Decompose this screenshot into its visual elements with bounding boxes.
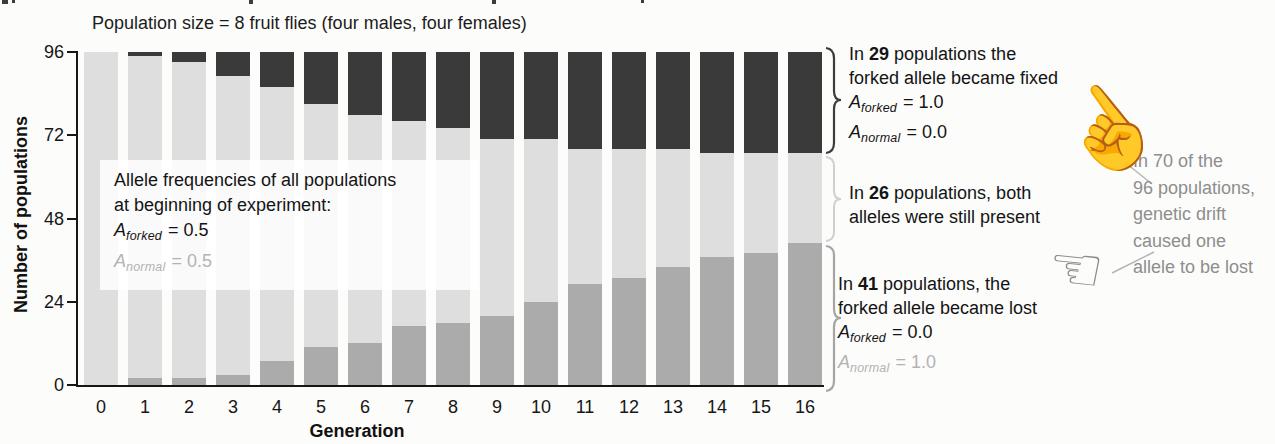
chart-title: Population size = 8 fruit flies (four ma… [92, 13, 527, 34]
y-tick-labels: 024487296 [28, 52, 68, 386]
bar-generation-15 [744, 52, 778, 385]
segment-forked-allele-lost [480, 316, 514, 385]
segment-forked-allele-fixed [260, 52, 294, 87]
info-line-2: at beginning of experiment: [114, 195, 331, 215]
segment-both-alleles-present [524, 139, 558, 302]
segment-forked-allele-lost [788, 243, 822, 385]
cropped-text-artifact [641, 0, 644, 3]
bar-generation-14 [700, 52, 734, 385]
info-a-forked: Aforked= 0.5 [114, 218, 466, 249]
x-tick-label-12: 12 [607, 397, 651, 418]
y-tick-mark-48 [67, 218, 76, 220]
segment-forked-allele-lost [436, 323, 470, 385]
x-tick-label-5: 5 [299, 397, 343, 418]
segment-forked-allele-fixed [700, 52, 734, 153]
x-tick-label-7: 7 [387, 397, 431, 418]
y-tick-mark-96 [67, 51, 76, 53]
segment-forked-allele-fixed [436, 52, 470, 128]
genetic-drift-figure: Population size = 8 fruit flies (four ma… [0, 0, 1275, 444]
y-tick-label-24: 24 [24, 292, 64, 313]
segment-forked-allele-lost [216, 375, 250, 385]
bar-generation-11 [568, 52, 602, 385]
segment-forked-allele-lost [656, 267, 690, 385]
segment-forked-allele-lost [612, 278, 646, 386]
segment-forked-allele-fixed [172, 52, 206, 62]
lost-a-forked: Aforked= 0.0 [838, 320, 1037, 350]
x-tick-label-9: 9 [475, 397, 519, 418]
segment-forked-allele-lost [568, 284, 602, 385]
x-tick-label-4: 4 [255, 397, 299, 418]
fixed-a-forked: Aforked= 1.0 [849, 90, 1058, 120]
segment-forked-allele-lost [348, 343, 382, 385]
segment-both-alleles-present [788, 153, 822, 243]
bar-generation-16 [788, 52, 822, 385]
brace-fixed [826, 48, 841, 153]
segment-forked-allele-lost [304, 347, 338, 385]
segment-forked-allele-fixed [524, 52, 558, 139]
y-axis-line [76, 51, 78, 387]
segment-forked-allele-fixed [656, 52, 690, 149]
segment-both-alleles-present [612, 149, 646, 277]
x-tick-label-0: 0 [79, 397, 123, 418]
x-tick-labels: 012345678910111213141516 [84, 397, 844, 419]
x-tick-label-8: 8 [431, 397, 475, 418]
segment-forked-allele-fixed [216, 52, 250, 76]
bar-generation-10 [524, 52, 558, 385]
segment-forked-allele-lost [260, 361, 294, 385]
annotation-both: In26populations, both alleles were still… [849, 181, 1040, 229]
segment-forked-allele-fixed [392, 52, 426, 121]
bar-generation-9 [480, 52, 514, 385]
cropped-text-artifact [492, 0, 496, 4]
segment-forked-allele-fixed [304, 52, 338, 104]
y-tick-mark-72 [67, 134, 76, 136]
segment-forked-allele-fixed [744, 52, 778, 153]
segment-both-alleles-present [480, 139, 514, 316]
y-tick-label-72: 72 [24, 125, 64, 146]
segment-forked-allele-fixed [612, 52, 646, 149]
segment-forked-allele-fixed [348, 52, 382, 114]
y-tick-label-0: 0 [24, 375, 64, 396]
segment-forked-allele-fixed [480, 52, 514, 139]
segment-forked-allele-lost [744, 253, 778, 385]
segment-forked-allele-lost [128, 378, 162, 385]
brace-both [826, 157, 841, 241]
segment-forked-allele-lost [524, 302, 558, 385]
initial-allele-frequency-box: Allele frequencies of all populations at… [100, 160, 478, 290]
pointing-hand-left-icon: ☜ [1045, 235, 1107, 303]
y-tick-label-48: 48 [24, 209, 64, 230]
y-tick-mark-24 [67, 301, 76, 303]
x-tick-label-16: 16 [783, 397, 827, 418]
fixed-a-normal: Anormal= 0.0 [849, 120, 1058, 150]
segment-forked-allele-lost [392, 326, 426, 385]
info-line-1: Allele frequencies of all populations [114, 170, 396, 190]
x-axis-title: Generation [287, 421, 427, 442]
cropped-text-artifact [12, 0, 15, 3]
cropped-text-artifact [2, 0, 8, 4]
y-tick-mark-0 [67, 384, 76, 386]
x-tick-label-3: 3 [211, 397, 255, 418]
segment-forked-allele-fixed [568, 52, 602, 149]
x-tick-label-1: 1 [123, 397, 167, 418]
x-tick-label-10: 10 [519, 397, 563, 418]
lost-a-normal: Anormal= 1.0 [838, 350, 1037, 380]
x-tick-label-15: 15 [739, 397, 783, 418]
y-tick-marks [67, 52, 76, 386]
annotation-fixed: In29populations the forked allele became… [849, 42, 1058, 150]
y-tick-label-96: 96 [24, 42, 64, 63]
segment-forked-allele-lost [172, 378, 206, 385]
x-tick-label-2: 2 [167, 397, 211, 418]
cropped-text-artifact [249, 0, 253, 4]
x-tick-label-14: 14 [695, 397, 739, 418]
segment-both-alleles-present [568, 149, 602, 284]
info-a-normal: Anormal= 0.5 [114, 249, 466, 280]
segment-both-alleles-present [700, 153, 734, 257]
drift-note: In 70 of the 96 populations, genetic dri… [1133, 148, 1255, 281]
x-tick-label-13: 13 [651, 397, 695, 418]
bar-generation-13 [656, 52, 690, 385]
segment-forked-allele-fixed [788, 52, 822, 153]
segment-forked-allele-lost [700, 257, 734, 385]
bar-generation-12 [612, 52, 646, 385]
segment-both-alleles-present [744, 153, 778, 254]
x-tick-label-11: 11 [563, 397, 607, 418]
annotation-lost: In41populations, the forked allele becam… [838, 272, 1037, 380]
